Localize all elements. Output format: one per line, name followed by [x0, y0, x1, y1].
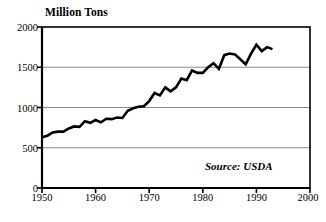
y-axis-labels: 0 500 1000 1500 2000 [0, 0, 38, 222]
x-tick-label-1960: 1960 [85, 192, 106, 203]
data-line-series-0 [42, 45, 272, 137]
chart-container: Million Tons 0 500 1000 1500 2000 1950 1… [0, 0, 326, 222]
x-tick-label-1950: 1950 [32, 192, 53, 203]
y-tick-label-500: 500 [4, 143, 38, 154]
y-tick-label-1500: 1500 [4, 62, 38, 73]
x-tick-label-1970: 1970 [139, 192, 160, 203]
x-tick-label-1980: 1980 [192, 192, 213, 203]
source-annotation: Source: USDA [205, 160, 273, 172]
y-tick-label-1000: 1000 [4, 102, 38, 113]
plot-area [0, 0, 326, 222]
y-tick-label-2000: 2000 [4, 22, 38, 33]
gridlines [42, 67, 310, 148]
x-tick-label-2000: 2000 [298, 192, 319, 203]
x-tick-label-1990: 1990 [246, 192, 267, 203]
